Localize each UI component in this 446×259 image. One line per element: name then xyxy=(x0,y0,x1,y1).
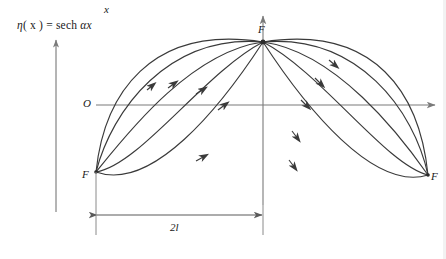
focus-label-right: F xyxy=(431,170,438,182)
dimension-label: 2l xyxy=(170,221,179,233)
arrow-marker-1-right xyxy=(329,60,336,66)
trajectory-arrows-left xyxy=(147,83,226,161)
axis-label-x: x xyxy=(104,3,109,15)
equation-arg: ( x ) = sech xyxy=(23,19,77,31)
trajectory-3-right xyxy=(263,42,428,175)
arrow-marker-5-right xyxy=(289,160,295,168)
trajectory-4-right xyxy=(263,42,428,175)
focus-nodes xyxy=(94,40,430,177)
dimension-extension-lines xyxy=(96,172,263,235)
trajectory-group-right xyxy=(263,39,428,177)
trajectory-3-left xyxy=(96,42,263,172)
focus-node-right xyxy=(426,173,430,177)
figure-canvas: η( x ) = sech αx x O F F F 2l xyxy=(0,0,446,259)
focus-label-left: F xyxy=(82,168,89,180)
arrow-marker-3-right xyxy=(301,100,308,107)
trajectory-arrows-right xyxy=(289,60,336,168)
trajectory-2-right xyxy=(263,41,428,175)
origin-label: O xyxy=(83,97,91,109)
arrow-marker-1-left xyxy=(147,85,153,90)
trajectory-1-right xyxy=(263,39,428,175)
equation-alpha: αx xyxy=(77,19,92,31)
trajectory-2-left xyxy=(96,41,263,172)
trajectory-group-left xyxy=(96,39,263,175)
equation-label: η( x ) = sech αx xyxy=(17,19,92,31)
trajectory-4-left xyxy=(96,42,263,172)
arrow-marker-3-left xyxy=(196,89,204,94)
arrow-marker-4-right xyxy=(292,131,298,139)
diagram-svg xyxy=(0,0,446,259)
focus-node-center xyxy=(261,40,266,45)
focus-label-center: F xyxy=(258,23,265,35)
trajectory-5-left xyxy=(96,42,263,175)
arrow-marker-5-left xyxy=(196,156,205,161)
